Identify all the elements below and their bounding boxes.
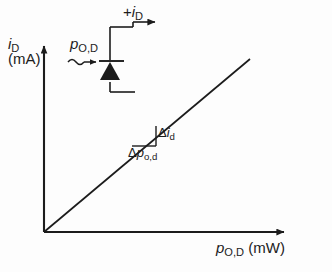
optical-power-subscript: O,D [78, 42, 98, 54]
x-axis-subscript: O,D [224, 246, 244, 258]
current-subscript: D [135, 10, 143, 22]
x-axis-label: pO,D (mW) [216, 240, 285, 256]
optical-power-label: pO,D [70, 36, 98, 52]
delta-power-symbol: p [137, 145, 144, 160]
y-axis-label: iD (mA) [8, 36, 41, 67]
figure-canvas: iD (mA) pO,D (mW) +iD pO,D Δid Δpo,d [0, 0, 332, 272]
delta-glyph-run: Δ [128, 145, 137, 160]
delta-current-subscript: d [170, 131, 175, 142]
delta-current-label: Δid [158, 126, 175, 140]
x-axis-unit: (mW) [248, 239, 285, 256]
current-sign: + [123, 3, 132, 20]
squiggle-arrow-icon [68, 60, 96, 65]
slope-triangle [132, 126, 156, 146]
circuit-schematic [110, 22, 155, 92]
y-axis-subscript: D [11, 42, 19, 54]
diode-symbol-icon [99, 61, 124, 80]
circuit-current-label: +iD [123, 4, 143, 20]
delta-power-subscript: o,d [144, 151, 157, 162]
delta-power-label: Δpo,d [128, 146, 157, 160]
delta-glyph-rise: Δ [158, 125, 167, 140]
